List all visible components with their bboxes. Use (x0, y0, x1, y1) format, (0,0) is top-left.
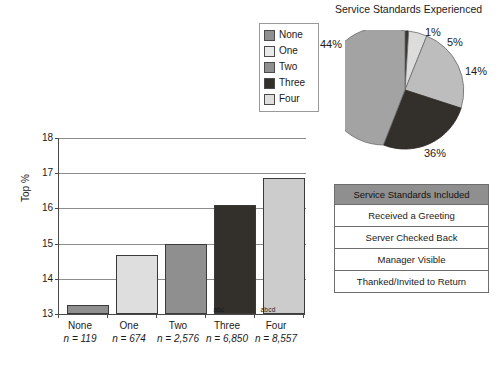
legend-label-one: One (279, 46, 298, 56)
pie-chart-title: Service Standards Experienced (335, 3, 501, 15)
legend-swatch-three (264, 78, 275, 89)
bar-one[interactable] (116, 255, 158, 314)
pie-chart-svg (345, 30, 465, 150)
legend-swatch-four (264, 94, 275, 105)
x-tick-1 (107, 314, 108, 318)
x-axis-line (58, 314, 305, 315)
bar-three[interactable] (214, 205, 256, 314)
pie-label-36: 36% (424, 148, 446, 159)
legend-swatch-none (264, 30, 275, 41)
service-standards-table: Service Standards Included Received a Gr… (334, 184, 489, 293)
x-tick-3 (205, 314, 206, 318)
bar-chart: Top % 18 17 16 15 14 13 (12, 134, 312, 369)
table-row: Manager Visible (335, 249, 488, 271)
y-axis-label: Top % (20, 174, 31, 202)
x-tick-2 (156, 314, 157, 318)
table-row: Server Checked Back (335, 227, 488, 249)
legend-label-none: None (279, 30, 303, 40)
table-row: Received a Greeting (335, 205, 488, 227)
x-category-four: Four n = 8,557 (237, 320, 315, 344)
bar-chart-plot-area: Top % 18 17 16 15 14 13 (58, 138, 305, 314)
bar-chart-legend: None One Two Three Four (259, 23, 319, 112)
legend-item-one: One (264, 43, 314, 59)
y-tick-label-16: 16 (31, 203, 53, 213)
pie-label-1: 1% (425, 27, 441, 38)
x-tick-0 (58, 314, 59, 318)
legend-item-four: Four (264, 91, 314, 107)
bar-series (59, 138, 306, 314)
significance-four: abcd (247, 306, 289, 313)
x-count-four: n = 8,557 (237, 333, 315, 344)
pie-label-14: 14% (465, 66, 487, 77)
legend-label-four: Four (279, 94, 300, 104)
x-tick-5 (303, 314, 304, 318)
figure-canvas: None One Two Three Four Top % 18 (0, 0, 501, 369)
y-tick-label-13: 13 (31, 309, 53, 319)
legend-swatch-one (264, 46, 275, 57)
pie-label-44: 44% (320, 39, 342, 50)
legend-item-two: Two (264, 59, 314, 75)
pie-chart (345, 30, 465, 150)
y-tick-label-18: 18 (31, 133, 53, 143)
x-label-four: Four (237, 320, 315, 331)
significance-three: abc (198, 306, 240, 313)
table-header-service-standards-included: Service Standards Included (335, 185, 488, 205)
bar-none[interactable] (67, 305, 109, 314)
pie-label-5: 5% (447, 37, 463, 48)
legend-item-none: None (264, 27, 314, 43)
y-tick-label-15: 15 (31, 239, 53, 249)
table-row: Thanked/Invited to Return (335, 271, 488, 292)
bar-two[interactable] (165, 244, 207, 314)
legend-swatch-two (264, 62, 275, 73)
y-tick-label-14: 14 (31, 274, 53, 284)
legend-item-three: Three (264, 75, 314, 91)
bar-four[interactable] (263, 178, 305, 314)
legend-label-two: Two (279, 62, 297, 72)
legend-label-three: Three (279, 78, 305, 88)
x-tick-4 (254, 314, 255, 318)
y-tick-label-17: 17 (31, 168, 53, 178)
